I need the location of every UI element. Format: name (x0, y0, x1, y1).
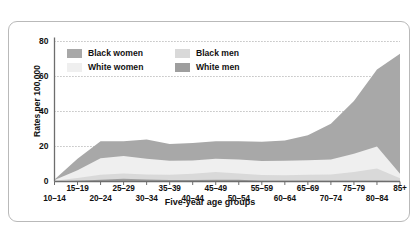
x-tick-label: 45–49 (202, 184, 229, 193)
x-tick-label: 55–59 (248, 184, 275, 193)
legend-swatch-icon (67, 49, 82, 58)
legend-item-white-men[interactable]: White men (175, 61, 239, 73)
y-tick-label-0: 0 (29, 177, 49, 186)
chart-plot-wrapper: 020406080 Rates per 100,000 10–1415–1920… (9, 22, 411, 223)
x-tick-label: 75–79 (340, 184, 367, 193)
legend-label: Black men (196, 48, 239, 58)
x-tick-label: 65–69 (294, 184, 321, 193)
x-tick-label: 25–29 (110, 184, 137, 193)
legend-swatch-icon (67, 63, 82, 72)
legend-item-white-women[interactable]: White women (67, 61, 143, 73)
legend-item-black-women[interactable]: Black women (67, 47, 143, 59)
x-tick-label: 15–19 (64, 184, 91, 193)
x-tick-label: 85+ (391, 184, 409, 193)
chart-legend: Black womenWhite womenBlack menWhite men (67, 47, 267, 77)
chart-x-axis-title: Five-year age groups (9, 197, 411, 207)
legend-swatch-icon (175, 49, 190, 58)
legend-label: Black women (88, 48, 143, 58)
legend-label: White men (196, 62, 239, 72)
legend-item-black-men[interactable]: Black men (175, 47, 239, 59)
x-tick-label: 35–39 (156, 184, 183, 193)
legend-swatch-icon (175, 63, 190, 72)
chart-figure-frame: 020406080 Rates per 100,000 10–1415–1920… (8, 21, 410, 222)
y-tick-label-80: 80 (29, 37, 49, 46)
legend-label: White women (88, 62, 143, 72)
chart-y-axis-title: Rates per 100,000 (32, 46, 42, 156)
